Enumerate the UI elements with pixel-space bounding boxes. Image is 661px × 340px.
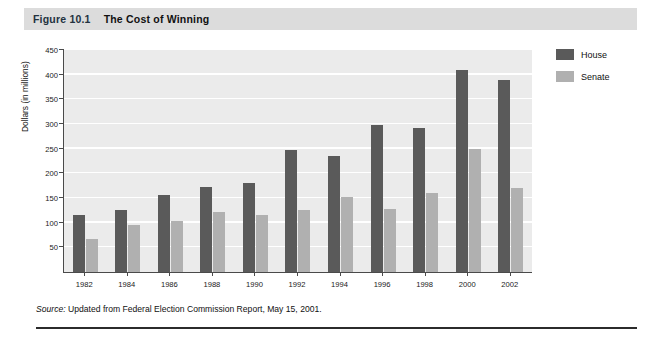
chart-legend: HouseSenate (556, 49, 610, 93)
bar-senate-2002 (511, 188, 523, 272)
bar-group (404, 50, 447, 272)
source-label: Source: (36, 304, 66, 314)
legend-item-senate: Senate (556, 71, 610, 82)
bar-house-1992 (285, 150, 297, 272)
bar-house-1990 (243, 183, 255, 272)
x-axis-tick (340, 272, 341, 276)
figure-title: The Cost of Winning (104, 13, 210, 25)
bar-senate-1982 (86, 239, 98, 272)
bar-group (319, 50, 362, 272)
bar-senate-1990 (256, 215, 268, 272)
x-axis-tick (169, 272, 170, 276)
legend-label-senate: Senate (581, 72, 610, 82)
x-axis-tick (382, 272, 383, 276)
bar-house-2000 (456, 70, 468, 272)
bar-group (489, 50, 532, 272)
bar-senate-1994 (341, 197, 353, 272)
bar-senate-1992 (298, 210, 310, 272)
x-axis-tick-label: 1988 (203, 280, 220, 289)
bar-senate-2000 (469, 149, 481, 272)
x-axis-tick (212, 272, 213, 276)
x-axis-tick-label: 1986 (161, 280, 178, 289)
bar-house-1982 (73, 215, 85, 272)
figure-title-band: Figure 10.1 The Cost of Winning (24, 8, 637, 30)
bar-senate-1998 (426, 193, 438, 272)
bar-senate-1988 (213, 212, 225, 272)
bar-group (277, 50, 320, 272)
bar-group (362, 50, 405, 272)
y-axis-tick-label: 150 (45, 194, 58, 203)
bar-group (192, 50, 235, 272)
y-axis-tick-label: 100 (45, 218, 58, 227)
x-axis-tick-label: 1998 (416, 280, 433, 289)
x-axis-tick (84, 272, 85, 276)
legend-label-house: House (581, 50, 607, 60)
figure-number: Figure 10.1 (33, 13, 91, 25)
x-axis-tick (510, 272, 511, 276)
y-axis-tick-label: 350 (45, 95, 58, 104)
x-axis-tick-label: 1990 (246, 280, 263, 289)
y-axis-tick-label: 200 (45, 169, 58, 178)
bar-senate-1984 (128, 225, 140, 272)
y-axis-tick-label: 250 (45, 144, 58, 153)
x-axis-tick-label: 1982 (76, 280, 93, 289)
y-axis-tick-label: 450 (45, 46, 58, 55)
bar-house-1988 (200, 187, 212, 272)
source-text: Updated from Federal Election Commission… (66, 304, 322, 314)
y-axis-tick-label: 300 (45, 120, 58, 129)
x-axis-tick-label: 1984 (118, 280, 135, 289)
legend-item-house: House (556, 49, 610, 60)
bar-house-1986 (158, 195, 170, 272)
bar-house-1998 (413, 128, 425, 272)
legend-swatch-senate (556, 71, 574, 82)
bar-senate-1996 (384, 209, 396, 272)
bar-group (149, 50, 192, 272)
y-axis-tick-label: 50 (50, 243, 58, 252)
bar-group (64, 50, 107, 272)
figure-container: Figure 10.1 The Cost of Winning Dollars … (0, 0, 661, 340)
x-axis-tick-label: 2000 (459, 280, 476, 289)
x-axis-tick (467, 272, 468, 276)
y-axis-tick-label: 400 (45, 70, 58, 79)
bar-group (447, 50, 490, 272)
bar-group (234, 50, 277, 272)
bar-house-1994 (328, 156, 340, 272)
x-axis-tick (425, 272, 426, 276)
bar-house-1996 (371, 125, 383, 272)
bar-senate-1986 (171, 221, 183, 272)
bar-group (107, 50, 150, 272)
chart-plot-area (63, 50, 532, 273)
bars-container (64, 50, 532, 272)
y-axis-label: Dollars (in millions) (20, 61, 30, 132)
x-axis-tick (254, 272, 255, 276)
x-axis-tick-label: 1996 (374, 280, 391, 289)
x-axis-tick-label: 1994 (331, 280, 348, 289)
bar-house-2002 (498, 80, 510, 272)
bar-house-1984 (115, 210, 127, 272)
bottom-rule (36, 327, 637, 329)
legend-swatch-house (556, 49, 574, 60)
y-axis-tick-labels: 50100150200250300350400450 (30, 50, 58, 272)
x-axis-tick-label: 2002 (501, 280, 518, 289)
source-note: Source: Updated from Federal Election Co… (36, 304, 322, 314)
x-axis-tick (297, 272, 298, 276)
x-axis-tick (127, 272, 128, 276)
x-axis-tick-label: 1992 (289, 280, 306, 289)
